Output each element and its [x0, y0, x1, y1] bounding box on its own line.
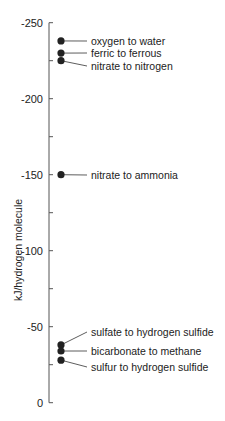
- y-axis-label: kJ/hydrogen molecule: [12, 199, 24, 301]
- y-axis: -250-200-150-100-500: [21, 17, 53, 409]
- point-marker: [57, 347, 64, 354]
- data-point: nitrate to ammonia: [57, 169, 178, 181]
- point-label: sulfur to hydrogen sulfide: [91, 361, 208, 373]
- point-label: sulfate to hydrogen sulfide: [91, 326, 214, 338]
- data-point: nitrate to nitrogen: [57, 57, 172, 71]
- tick-label: -100: [21, 245, 43, 257]
- tick-label: 0: [37, 397, 43, 409]
- data-points: oxygen to waterferric to ferrousnitrate …: [57, 35, 213, 373]
- tick-label: -150: [21, 169, 43, 181]
- data-point: oxygen to water: [57, 35, 165, 47]
- point-label: bicarbonate to methane: [91, 345, 201, 357]
- point-label: nitrate to nitrogen: [91, 60, 173, 72]
- point-label: ferric to ferrous: [91, 47, 162, 59]
- data-point: ferric to ferrous: [57, 47, 161, 59]
- point-marker: [57, 50, 64, 57]
- tick-label: -200: [21, 93, 43, 105]
- tick-label: -50: [27, 321, 43, 333]
- chart: -250-200-150-100-500 oxygen to waterferr…: [0, 0, 225, 421]
- point-marker: [57, 357, 64, 364]
- point-label: oxygen to water: [91, 35, 166, 47]
- point-marker: [57, 171, 64, 178]
- point-label: nitrate to ammonia: [91, 169, 178, 181]
- point-marker: [57, 57, 64, 64]
- point-marker: [57, 37, 64, 44]
- data-point: bicarbonate to methane: [57, 345, 201, 357]
- tick-label: -250: [21, 17, 43, 29]
- data-point: sulfur to hydrogen sulfide: [57, 357, 208, 373]
